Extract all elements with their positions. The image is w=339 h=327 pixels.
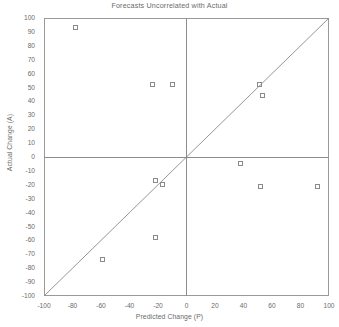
- y-tick-label: -50: [5, 223, 35, 230]
- scatter-point: [257, 82, 262, 87]
- y-tick-label: -80: [5, 264, 35, 271]
- y-tick-label: 80: [5, 42, 35, 49]
- y-tick-label: 100: [5, 14, 35, 21]
- scatter-point: [100, 257, 105, 262]
- y-zero-axis-line: [186, 18, 187, 296]
- chart-container: Forecasts Uncorrelated with Actual 10090…: [0, 0, 339, 327]
- scatter-point: [73, 25, 78, 30]
- y-tick-label: -40: [5, 209, 35, 216]
- scatter-point: [260, 93, 265, 98]
- scatter-point: [153, 178, 158, 183]
- y-tick-label: -60: [5, 236, 35, 243]
- x-tick-mark-minor: [0, 103, 1, 106]
- y-tick-label: -100: [5, 292, 35, 299]
- y-tick-label: -90: [5, 278, 35, 285]
- chart-title: Forecasts Uncorrelated with Actual: [0, 1, 339, 10]
- scatter-point: [238, 161, 243, 166]
- scatter-point: [160, 182, 165, 187]
- scatter-point: [170, 82, 175, 87]
- scatter-point: [258, 184, 263, 189]
- scatter-point: [150, 82, 155, 87]
- x-axis-label: Predicted Change (P): [0, 313, 339, 320]
- scatter-point: [315, 184, 320, 189]
- scatter-point: [153, 235, 158, 240]
- y-tick-label: 70: [5, 56, 35, 63]
- x-tick-label: 100: [309, 302, 339, 309]
- y-tick-label: 90: [5, 28, 35, 35]
- y-axis-label: Actual Change (A): [6, 83, 13, 203]
- y-tick-label: -70: [5, 250, 35, 257]
- y-tick-label: 60: [5, 70, 35, 77]
